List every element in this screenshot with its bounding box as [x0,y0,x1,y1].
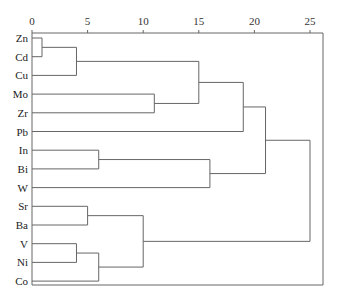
leaf-label: Ba [16,219,28,231]
leaf-label: Mo [13,88,29,100]
leaf-label: Cu [15,69,28,81]
leaf-label: Zn [16,32,29,44]
leaf-label: In [19,144,29,156]
leaf-label: Zr [18,107,29,119]
leaf-label: Ni [17,256,28,268]
leaf-label: Bi [18,163,28,175]
x-tick-label: 0 [29,15,35,27]
leaf-label: Pb [16,126,28,138]
x-tick-label: 25 [305,15,317,27]
x-tick-label: 15 [193,15,205,27]
leaf-label: Cd [15,51,28,63]
leaf-label: W [18,182,29,194]
dendrogram-chart: 0510152025ZnCdCuMoZrPbInBiWSrBaVNiCo [0,0,338,303]
x-tick-label: 10 [138,15,150,27]
x-tick-label: 20 [249,15,261,27]
leaf-label: V [20,238,28,250]
leaf-label: Sr [18,200,28,212]
x-tick-label: 5 [85,15,91,27]
leaf-label: Co [15,275,28,287]
